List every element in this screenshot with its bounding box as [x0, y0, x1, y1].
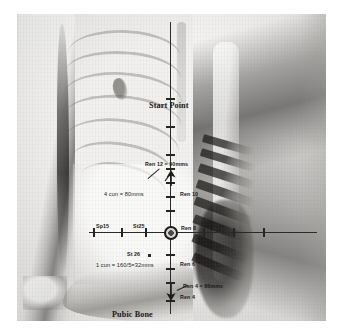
ren4-arrow-icon — [163, 284, 179, 301]
label-ren12: Ren 12 = 90mms — [145, 162, 188, 167]
label-sp15: Sp15 — [96, 224, 109, 229]
measurement-overlay: Start Point Ren 12 = 90mms Ren 10 Ren 8 … — [17, 14, 326, 321]
label-ren4-measure: Ren 4 = 86mms — [183, 284, 223, 289]
label-st25: St25 — [133, 224, 145, 229]
label-ren10: Ren 10 — [180, 192, 198, 197]
ruler-tick — [233, 228, 235, 237]
ruler-tick — [203, 228, 205, 237]
ruler-tick — [145, 228, 147, 237]
label-four-cun: 4 cun = 80mms — [104, 192, 144, 198]
label-ren8: Ren 8 — [181, 226, 196, 231]
ren12-arrow-icon — [163, 169, 179, 186]
leader-line — [148, 169, 160, 180]
ruler-tick — [263, 228, 265, 237]
anatomical-scan-plate: Start Point Ren 12 = 90mms Ren 10 Ren 8 … — [17, 14, 326, 321]
label-ren6: Ren 6 — [180, 262, 195, 267]
label-start-point: Start Point — [149, 102, 189, 110]
ruler-tick — [121, 228, 123, 237]
ruler-tick — [93, 228, 95, 237]
figure-page: Start Point Ren 12 = 90mms Ren 10 Ren 8 … — [0, 0, 343, 334]
ruler-tick — [166, 98, 175, 100]
label-one-cun: 1 cun = 160/5=32mms — [96, 263, 154, 269]
st26-point-marker — [148, 254, 151, 257]
ruler-tick — [166, 268, 175, 270]
ruler-tick — [166, 210, 175, 212]
ruler-tick — [166, 196, 175, 198]
umbilicus-marker — [164, 226, 178, 240]
label-st26: St 26 — [127, 252, 140, 257]
label-ren4: Ren 4 — [180, 295, 195, 300]
ruler-tick — [166, 126, 175, 128]
ruler-tick — [166, 154, 175, 156]
ruler-tick — [166, 254, 175, 256]
label-pubic-bone: Pubic Bone — [112, 311, 153, 319]
